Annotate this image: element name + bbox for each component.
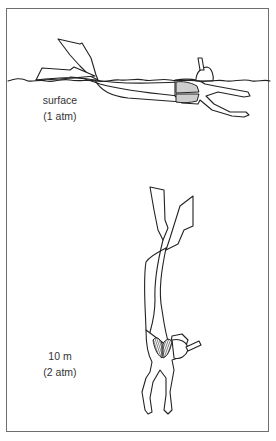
surface-label: surface (1 atm)	[30, 92, 90, 124]
surface-label-pressure: (1 atm)	[30, 108, 90, 124]
snorkel-icon	[198, 58, 204, 70]
descending-diver	[142, 187, 201, 414]
short-fin-icon	[166, 196, 193, 250]
head	[196, 67, 213, 81]
depth-label-pressure: (2 atm)	[30, 364, 90, 380]
surface-label-depth: surface	[30, 92, 90, 108]
depth-label-depth: 10 m	[30, 348, 90, 364]
long-fin-icon	[150, 187, 168, 240]
snorkel-icon	[186, 341, 201, 351]
depth-label: 10 m (2 atm)	[30, 348, 90, 380]
